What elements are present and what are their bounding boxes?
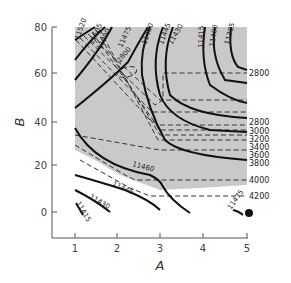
y-axis-title: B [12, 117, 27, 126]
x-ticks: 1 2 3 4 5 [72, 233, 250, 254]
right-dashed-labels: 2800 2800 3000 3200 3400 3600 3800 4000 … [249, 69, 269, 201]
x-tick-label: 1 [72, 243, 78, 254]
y-tick-label: 60 [34, 68, 47, 79]
y-tick-label: 20 [34, 160, 47, 171]
dashed-label: 4000 [249, 176, 269, 185]
x-tick-label: 4 [200, 243, 206, 254]
y-tick-label: 40 [34, 117, 47, 128]
contour-label: 11415 [74, 200, 92, 223]
y-tick-label: 0 [41, 207, 47, 218]
y-ticks: 80 60 40 20 0 [34, 22, 57, 218]
contour-chart: 80 60 40 20 0 1 2 3 4 5 A B [0, 0, 291, 283]
shaded-region [75, 27, 247, 190]
dashed-label: 2800 [249, 118, 269, 127]
x-tick-label: 3 [157, 243, 163, 254]
x-tick-label: 5 [244, 243, 250, 254]
contour-label: 11445 [111, 180, 135, 197]
x-axis-title: A [155, 258, 165, 273]
contour-label: 11415 [197, 26, 206, 49]
dashed-label: 2800 [249, 69, 269, 78]
marker-label: 11475 [226, 188, 245, 211]
contour-label: 11430 [88, 193, 111, 211]
y-tick-label: 80 [34, 22, 47, 33]
x-tick-label: 2 [114, 243, 120, 254]
dashed-label: 3800 [249, 159, 269, 168]
optimum-marker [245, 209, 253, 217]
dashed-label: 4200 [249, 192, 269, 201]
